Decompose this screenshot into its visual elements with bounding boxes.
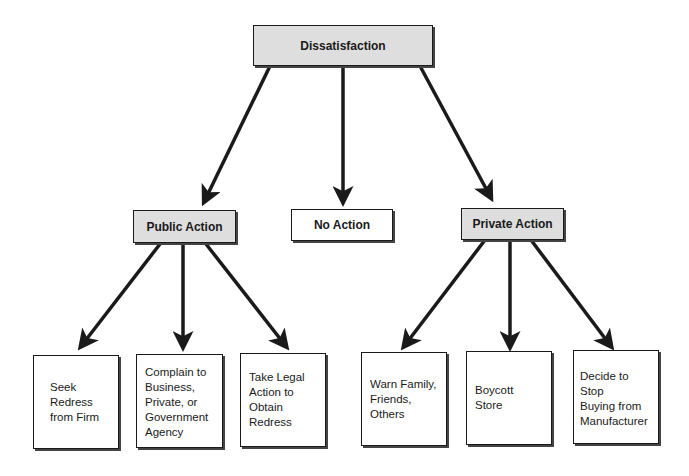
node-warn-family: Warn Family, Friends, Others xyxy=(361,352,447,446)
node-label: Boycott Store xyxy=(475,383,543,413)
node-private-action: Private Action xyxy=(461,208,564,240)
node-stop-buying: Decide to Stop Buying from Manufacturer xyxy=(573,350,659,444)
node-label: Dissatisfaction xyxy=(300,39,385,53)
node-complain: Complain to Business, Private, or Govern… xyxy=(136,354,223,448)
node-label: Seek Redress from Firm xyxy=(50,380,99,425)
node-public-action: Public Action xyxy=(133,210,236,243)
node-label: Private Action xyxy=(472,217,552,231)
node-label: Decide to Stop Buying from Manufacturer xyxy=(580,369,650,429)
node-boycott-store: Boycott Store xyxy=(466,351,552,445)
node-dissatisfaction: Dissatisfaction xyxy=(253,25,433,66)
node-no-action: No Action xyxy=(291,209,393,241)
node-label: Warn Family, Friends, Others xyxy=(370,377,438,422)
node-legal-action: Take Legal Action to Obtain Redress xyxy=(240,353,326,447)
node-label: Take Legal Action to Obtain Redress xyxy=(249,370,305,430)
node-label: No Action xyxy=(314,218,370,232)
node-label: Complain to Business, Private, or Govern… xyxy=(145,365,208,440)
node-label: Public Action xyxy=(146,220,222,234)
node-seek-redress: Seek Redress from Firm xyxy=(33,355,119,449)
